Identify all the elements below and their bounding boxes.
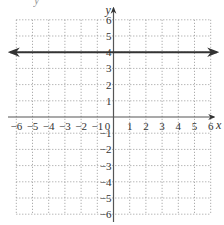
x-tick-label: 4 [176,120,182,132]
x-tick-label: 6 [208,120,214,132]
y-tick-label: −5 [100,192,112,204]
x-tick-label: 2 [143,120,149,132]
x-tick-label: −4 [43,120,55,132]
y-axis-label: y [105,3,112,17]
x-tick-label: −6 [10,120,22,132]
x-axis-label: x [215,118,222,132]
y-tick-label: 3 [106,62,112,74]
y-tick-label: 2 [106,79,112,91]
y-tick-label: −4 [100,176,112,188]
y-tick-label: −1 [100,127,112,139]
y-tick-label: −3 [100,160,112,172]
y-tick-label: −6 [100,208,112,220]
y-tick-label: 5 [106,30,112,42]
x-tick-label: −5 [27,120,39,132]
x-tick-label: 3 [159,120,165,132]
y-tick-label: −2 [100,143,112,155]
x-tick-label: 1 [127,120,133,132]
x-tick-label: 5 [192,120,198,132]
corner-label: y [33,0,40,7]
coordinate-plane: −6−5−4−3−2−10123456−6−5−4−3−2−1123456 x … [0,0,224,225]
x-tick-label: −3 [59,120,71,132]
x-tick-label: −2 [75,120,87,132]
y-tick-label: 1 [106,95,112,107]
